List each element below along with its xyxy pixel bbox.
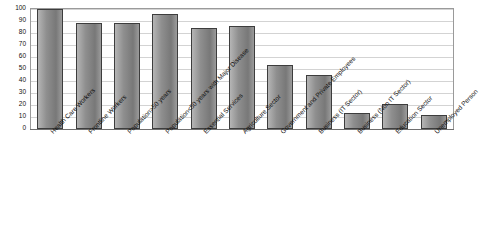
y-axis: 100 90 80 70 60 50 40 30 20 10 0 (4, 8, 28, 130)
y-tick-label: 10 (19, 113, 26, 119)
bar[interactable] (76, 23, 102, 129)
y-tick-label: 100 (15, 5, 26, 11)
y-tick-label: 70 (19, 41, 26, 47)
bar[interactable] (229, 26, 255, 129)
y-tick-label: 50 (19, 65, 26, 71)
bars-layer (31, 9, 453, 129)
y-tick-label: 30 (19, 89, 26, 95)
y-tick-label: 20 (19, 101, 26, 107)
bar[interactable] (114, 23, 140, 129)
y-tick-label: 40 (19, 77, 26, 83)
y-tick-label: 90 (19, 17, 26, 23)
bar[interactable] (152, 14, 178, 129)
y-tick-label: 60 (19, 53, 26, 59)
y-tick-label: 80 (19, 29, 26, 35)
x-axis-labels: Health Care WorkersFrontline WorkersPopu… (0, 130, 470, 242)
bar[interactable] (37, 9, 63, 129)
